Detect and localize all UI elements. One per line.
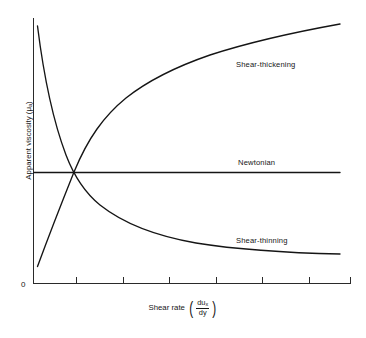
viscosity-shear-rate-figure: 0 Shear-thickening Newtonian Shear-thinn…: [0, 0, 366, 338]
y-axis-title: Apparent viscosity (μa): [24, 51, 33, 231]
y-axis-title-text: Apparent viscosity (: [24, 112, 33, 180]
curve-label-newtonian: Newtonian: [238, 158, 275, 167]
plot-area: [0, 0, 366, 338]
axes-group: [33, 18, 351, 284]
fraction-denominator: dy: [198, 309, 208, 317]
origin-tick-label: 0: [21, 280, 25, 289]
curve-label-shear-thinning: Shear-thinning: [236, 236, 288, 245]
paren-close-icon: ): [212, 300, 216, 316]
curve-label-shear-thickening: Shear-thickening: [236, 60, 295, 69]
x-axis-title: Shear rate ( dux dy ): [0, 299, 366, 317]
derivative-fraction: dux dy: [196, 299, 209, 317]
x-axis-title-text: Shear rate: [148, 303, 184, 312]
y-axis-symbol: μ: [24, 107, 33, 112]
paren-open-icon: (: [189, 300, 193, 316]
y-axis-title-close: ): [24, 101, 33, 104]
fraction-numerator-subscript: x: [205, 301, 208, 307]
y-axis-symbol-subscript: a: [27, 104, 33, 107]
x-axis-ticks: [77, 277, 351, 283]
